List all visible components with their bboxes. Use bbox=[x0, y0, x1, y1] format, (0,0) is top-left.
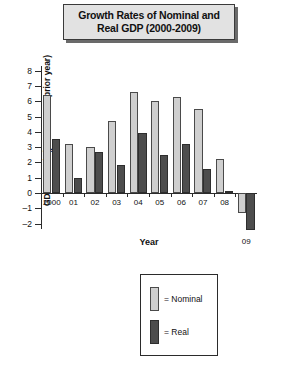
bar-real-01 bbox=[74, 178, 82, 193]
chart-legend: = Nominal = Real bbox=[140, 274, 218, 356]
legend-item-real: = Real bbox=[150, 320, 189, 344]
plot-area bbox=[41, 66, 257, 198]
legend-label-nominal: = Nominal bbox=[164, 294, 203, 304]
chart-title-line-2: Real GDP (2000-2009) bbox=[70, 22, 228, 35]
bar-real-2000 bbox=[52, 139, 60, 193]
bar-real-05 bbox=[160, 155, 168, 193]
bar-nominal-07 bbox=[194, 109, 202, 193]
bar-nominal-05 bbox=[151, 101, 159, 193]
bar-nominal-06 bbox=[173, 97, 181, 193]
x-axis-label: Year bbox=[41, 237, 257, 247]
bar-real-03 bbox=[117, 165, 125, 193]
bar-real-07 bbox=[203, 169, 211, 193]
bar-nominal-04 bbox=[130, 92, 138, 193]
bar-real-06 bbox=[182, 144, 190, 193]
bar-nominal-02 bbox=[86, 147, 94, 193]
legend-swatch-nominal-icon bbox=[150, 287, 159, 311]
bar-real-04 bbox=[138, 133, 146, 193]
legend-label-real: = Real bbox=[164, 327, 189, 337]
y-axis-tick bbox=[35, 208, 41, 209]
bar-real-02 bbox=[95, 152, 103, 193]
y-axis-label-host: GDP Growth (percent over prior year) bbox=[16, 66, 30, 216]
bar-nominal-09 bbox=[238, 193, 246, 213]
bar-nominal-01 bbox=[65, 144, 73, 193]
x-axis-tick-label: 08 bbox=[211, 199, 239, 207]
y-axis-tick bbox=[35, 224, 41, 225]
bar-nominal-03 bbox=[108, 121, 116, 193]
chart-title: Growth Rates of Nominal and Real GDP (20… bbox=[63, 4, 235, 40]
bar-nominal-08 bbox=[216, 159, 224, 193]
bar-nominal-2000 bbox=[43, 95, 51, 193]
legend-item-nominal: = Nominal bbox=[150, 287, 203, 311]
legend-swatch-real-icon bbox=[150, 320, 159, 344]
bar-real-09 bbox=[246, 193, 254, 230]
bar-real-08 bbox=[225, 191, 233, 193]
chart-title-box: Growth Rates of Nominal and Real GDP (20… bbox=[63, 4, 235, 40]
y-axis-tick-label: –2 bbox=[14, 220, 32, 229]
chart-title-line-1: Growth Rates of Nominal and bbox=[70, 9, 228, 22]
